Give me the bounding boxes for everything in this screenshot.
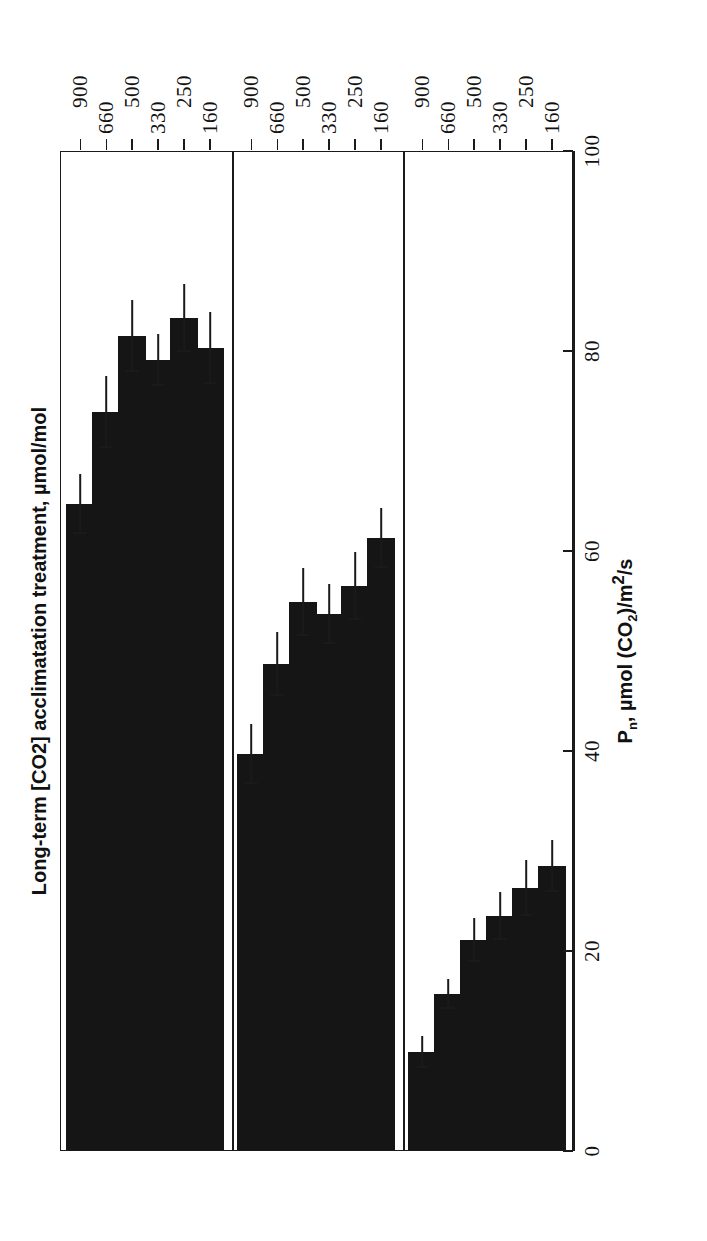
category-tick [380,139,382,150]
panel-160: AM [CO2]: 160 [403,152,574,1150]
bar-row [170,152,198,1150]
value-axis-title-superscript-2: 2 [609,575,628,584]
category-tick [131,139,133,150]
error-bar [157,334,159,386]
error-bar-cap [125,370,138,372]
error-bar-cap [348,618,361,620]
category-tick-label: 660 [435,101,460,134]
category-tick-label: 900 [238,75,263,108]
value-axis-title-part4: /s [613,558,635,575]
category-tick-label: 500 [461,75,486,108]
bar [237,754,265,1150]
bar [341,586,369,1150]
error-bar-cap [203,382,216,384]
bar [195,348,223,1150]
value-axis-tick-label: 60 [580,540,605,562]
bar-row [144,152,172,1150]
error-bar [328,584,330,644]
value-axis-line [573,151,575,1151]
bar [263,664,291,1150]
bar [537,866,565,1150]
category-tick-label: 160 [368,101,393,134]
category-tick-label: 660 [264,101,289,134]
value-axis-tick [563,1150,573,1152]
bar-row [195,152,223,1150]
value-axis-tick-label: 40 [580,740,605,762]
error-bar [183,284,185,352]
category-tick-label: 900 [67,75,92,108]
error-bar [473,918,475,962]
error-bar [551,840,553,892]
bar [144,360,172,1150]
error-bar-cap [493,938,506,940]
error-bar [499,892,501,940]
bar [289,602,317,1150]
error-bar-cap [467,960,480,962]
bar-row [512,152,540,1150]
error-bar-cap [73,532,86,534]
category-tick [276,139,278,150]
category-tick [157,139,159,150]
bar [512,888,540,1150]
category-tick [328,139,330,150]
error-bar-cap [415,1066,428,1068]
category-tick [473,139,475,150]
category-tick [525,139,527,150]
error-bar-cap [519,914,532,916]
value-axis-tick [563,950,573,952]
bar [118,336,146,1150]
bar-row [341,152,369,1150]
bar-row [366,152,394,1150]
category-tick [105,139,107,150]
category-tick [447,139,449,150]
error-bar [354,552,356,620]
value-axis-title-subscript-2: 2 [624,614,639,621]
category-tick [183,139,185,150]
bar-row [537,152,565,1150]
bar-row [66,152,94,1150]
category-tick-label: 250 [342,75,367,108]
value-axis-title-subscript-n: n [624,722,639,730]
category-tick [79,139,81,150]
value-axis-tick [563,350,573,352]
bar [486,916,514,1150]
bar-row [118,152,146,1150]
category-tick-label: 330 [487,101,512,134]
bar-row [486,152,514,1150]
category-tick-label: 160 [539,101,564,134]
category-tick-label: 160 [197,101,222,134]
error-bar [447,979,449,1009]
error-bar [105,376,107,448]
bar [315,614,343,1150]
category-tick [551,139,553,150]
rotated-plot-stage: Long-term [CO2] acclimatation treatment,… [34,46,674,1196]
bar [366,538,394,1150]
error-bar [79,474,81,534]
error-bar-cap [99,446,112,448]
category-tick-label: 250 [513,75,538,108]
error-bar [209,312,211,384]
category-tick-label: 500 [290,75,315,108]
category-tick-label: 330 [145,101,170,134]
panel-330: AM [CO2]: 330 [232,152,403,1150]
category-axis-title: Long-term [CO2] acclimatation treatment,… [28,151,51,1151]
error-bar [276,632,278,696]
category-tick [421,139,423,150]
value-axis-tick [563,750,573,752]
panel-660: AM [CO2]: 660 [61,152,232,1150]
error-bar [302,568,304,636]
bar-row [237,152,265,1150]
category-tick-label: 660 [93,101,118,134]
error-bar-cap [270,694,283,696]
bar [460,940,488,1150]
value-axis-title-p: P [613,730,635,743]
category-tick [354,139,356,150]
error-bar-cap [322,642,335,644]
value-axis-title-part2: , µmol (CO [613,621,635,721]
value-axis-tick-label: 20 [580,940,605,962]
value-axis-tick-label: 0 [580,1145,605,1156]
category-tick [250,139,252,150]
error-bar-cap [441,1007,454,1009]
value-axis-tick-label: 80 [580,340,605,362]
plot-frame: 160250330500660900AM [CO2]: 160160250330… [60,151,573,1151]
